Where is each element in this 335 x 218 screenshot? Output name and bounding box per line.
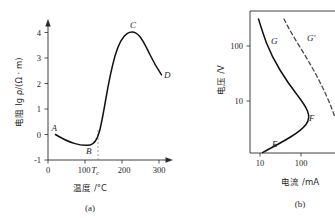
x-tick-label: 100 [78,165,91,175]
x-tick-label: 200 [118,165,131,175]
point-label-E: E [271,139,278,149]
y-axis-arrowhead [45,19,50,27]
chart-b-y-ticks [247,46,251,101]
chart-a-annotations: A B C D [51,20,172,156]
chart-a-x-axis [48,157,173,162]
x-axis-arrowhead [166,157,174,162]
y-tick-label: 3 [37,53,41,63]
chart-a-y-ticks [45,33,49,161]
chart-b-x-ticks [260,153,301,157]
point-label-G-prime: G′ [307,33,316,43]
chart-panel-b: 100 10 10 100 E F G G′ [180,0,335,218]
y-tick-label: 4 [37,28,42,38]
chart-b-svg: 100 10 10 100 E F G G′ [180,0,335,218]
y-tick-label: -1 [34,155,41,165]
tc-tick-label: Tc [91,165,99,176]
x-tick-label: 0 [46,165,50,175]
chart-b-y-ticklabels: 100 10 [230,41,243,106]
y-tick-label: 1 [37,104,41,114]
x-tick-label: 300 [153,165,166,175]
point-label-B: B [86,146,92,156]
chart-b-solid-curve [259,19,309,153]
y-tick-label: 10 [235,96,244,106]
chart-a-y-ticklabels: -1 0 1 2 3 4 [34,28,42,166]
chart-panel-a: -1 0 1 2 3 4 0 100 200 300 Tc [0,0,180,218]
chart-a-curve [55,32,161,145]
point-label-C: C [130,20,137,30]
y-tick-label: 0 [37,130,41,140]
chart-b-x-ticklabels: 10 100 [256,158,308,168]
point-label-G: G [271,36,278,46]
chart-a-y-axis [45,19,50,160]
x-axis-title: 温度/°C [73,183,107,193]
chart-b-axis-titles: 电流/mA 电压/V [216,65,319,187]
x-axis-title: 电流/mA [281,177,319,187]
y-axis-title: 电阻lg ρ/(Ω · m) [14,57,24,126]
figure-root: -1 0 1 2 3 4 0 100 200 300 Tc [0,0,335,218]
chart-a-x-ticks [48,160,159,164]
panel-b-caption: (b) [295,199,306,209]
chart-a-svg: -1 0 1 2 3 4 0 100 200 300 Tc [0,0,180,218]
point-label-F: F [308,113,315,123]
x-tick-label: 10 [256,158,265,168]
x-tick-label: 100 [295,158,308,168]
point-label-D: D [163,70,171,80]
point-label-A: A [51,123,58,133]
y-tick-label: 100 [230,41,243,51]
chart-a-x-ticklabels: 0 100 200 300 Tc [46,165,166,176]
panel-a-caption: (a) [85,203,95,213]
y-tick-label: 2 [37,79,41,89]
y-axis-title: 电压/V [216,65,226,95]
